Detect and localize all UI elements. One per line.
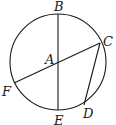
label-c: C [103, 34, 113, 49]
label-d: D [82, 106, 94, 121]
diameter-cf [14, 43, 100, 83]
label-b: B [53, 0, 64, 14]
geometry-diagram: A B C D E F [0, 0, 116, 125]
label-f: F [1, 84, 12, 99]
label-e: E [53, 113, 64, 125]
label-a: A [44, 52, 54, 67]
